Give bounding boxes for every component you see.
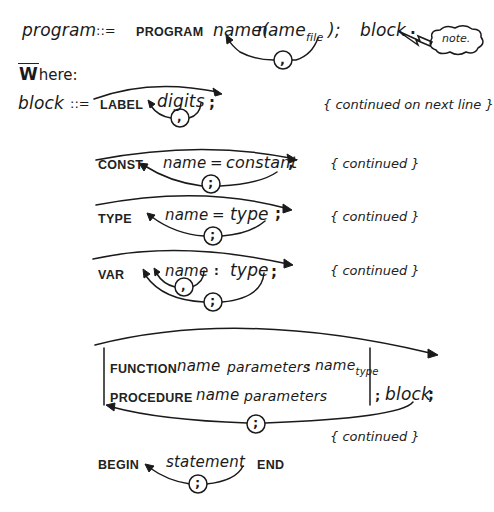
label-comment: { continued on next line } — [323, 98, 494, 111]
begin-keyword: BEGIN — [98, 459, 139, 472]
var-terminator: ; — [271, 265, 277, 280]
where-label: Where: — [18, 66, 78, 83]
subprogram-terminator: ; — [428, 388, 434, 403]
begin-statement: statement — [166, 455, 245, 470]
note-label: note. — [442, 33, 470, 44]
type-comment: { continued } — [330, 210, 420, 223]
label-loop-separator: , — [177, 111, 182, 123]
var-comment: { continued } — [330, 264, 420, 277]
subprogram-section-lines — [95, 328, 438, 433]
begin-loop-separator: ; — [195, 476, 200, 489]
definition-symbol: ::= — [96, 24, 116, 37]
program-block: block — [360, 22, 406, 39]
type-name: name — [165, 208, 208, 223]
function-name: name — [177, 359, 220, 374]
label-keyword: LABEL — [100, 99, 143, 112]
const-name: name — [163, 156, 206, 171]
const-keyword: CONST — [98, 159, 143, 172]
function-parameters: parameters — [227, 360, 310, 374]
subprogram-block: block — [385, 386, 431, 403]
const-comment: { continued } — [330, 157, 420, 170]
procedure-keyword: PROCEDURE — [110, 392, 193, 405]
var-name: name — [165, 264, 208, 279]
block-definition-symbol: ::= — [70, 97, 90, 110]
type-subscript: type — [356, 366, 379, 377]
program-keyword: PROGRAM — [136, 26, 203, 39]
type-equals: = — [212, 208, 225, 223]
var-loop-separator: ; — [210, 294, 215, 307]
const-loop-separator: ; — [208, 176, 213, 189]
end-keyword: END — [257, 459, 284, 472]
file-param: namefile — [257, 22, 324, 39]
label-digits: digits — [157, 93, 205, 110]
where-decorated-initial: W — [18, 63, 39, 84]
subprogram-loop-separator: ; — [253, 416, 258, 429]
function-colon: : — [306, 361, 311, 373]
procedure-parameters: parameters — [244, 389, 327, 403]
file-subscript: file — [306, 31, 324, 44]
const-terminator: ; — [288, 156, 294, 171]
block-lhs: block — [18, 95, 64, 112]
program-name: name — [213, 22, 262, 39]
close-paren-semicolon: ); — [328, 22, 341, 39]
program-param-loop — [226, 35, 318, 69]
procedure-name: name — [196, 388, 239, 403]
function-keyword: FUNCTION — [110, 363, 177, 376]
type-type: type — [230, 206, 269, 223]
function-return-type: nametype — [315, 358, 379, 372]
var-keyword: VAR — [98, 269, 124, 282]
subprogram-comment: { continued } — [330, 430, 420, 443]
type-loop-separator: ; — [210, 228, 215, 241]
type-keyword: TYPE — [98, 213, 132, 226]
program-period: . — [410, 22, 416, 37]
program-lhs: program — [22, 22, 96, 39]
param-loop-separator: , — [280, 53, 285, 66]
var-inner-loop-separator: , — [181, 280, 186, 292]
const-equals: = — [210, 156, 223, 171]
type-terminator: ; — [275, 207, 281, 222]
var-colon: : — [214, 265, 219, 277]
after-bar-semicolon: ; — [375, 389, 380, 402]
var-type: type — [230, 262, 269, 279]
label-terminator: ; — [209, 96, 215, 111]
const-constant: constant — [226, 155, 297, 171]
